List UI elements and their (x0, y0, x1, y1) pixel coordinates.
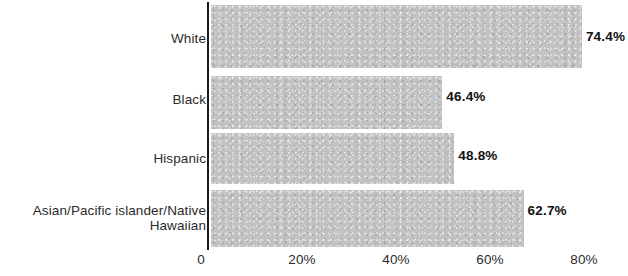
x-axis-tick-0: 0 (197, 252, 205, 267)
y-axis-line (207, 2, 209, 250)
x-axis-tick-20: 20% (288, 252, 316, 267)
x-axis-tick-40: 40% (382, 252, 410, 267)
category-label-hispanic: Hispanic (0, 151, 206, 166)
bar-value-asian-pacific-islander-native-hawaiian: 62.7% (528, 203, 567, 218)
bar-black (211, 76, 442, 129)
category-label-asian-pacific-islander-native-hawaiian: Asian/Pacific islander/Native Hawaiian (0, 203, 206, 233)
bar-asian-pacific-islander-native-hawaiian (211, 190, 524, 247)
bar-hispanic (211, 133, 454, 184)
category-label-white: White (0, 31, 206, 46)
bar-value-black: 46.4% (446, 89, 485, 104)
bar-value-white: 74.4% (586, 29, 625, 44)
bar-chart: White Black Hispanic Asian/Pacific islan… (0, 0, 628, 276)
x-axis-tick-60: 60% (476, 252, 504, 267)
category-label-black: Black (0, 92, 206, 107)
x-axis-tick-80: 80% (570, 252, 598, 267)
bar-white (211, 5, 582, 68)
bar-value-hispanic: 48.8% (458, 148, 497, 163)
